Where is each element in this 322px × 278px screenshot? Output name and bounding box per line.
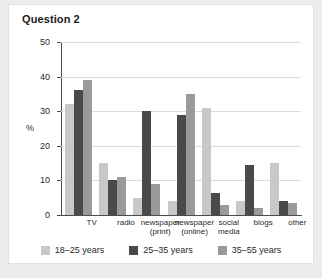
bar [279, 201, 288, 215]
bar [254, 208, 263, 215]
bar [288, 203, 297, 215]
bar [108, 180, 117, 215]
y-axis-tick: 10 [57, 180, 61, 181]
bar-group: other [270, 42, 297, 215]
y-axis-tick: 40 [57, 77, 61, 78]
bar [236, 201, 245, 215]
x-axis-line [61, 215, 302, 216]
x-axis-tick-label-line: media [202, 227, 256, 236]
bar [186, 94, 195, 215]
legend-label: 18–25 years [55, 245, 105, 255]
bar [270, 163, 279, 215]
x-axis-tick-label: other [270, 218, 322, 227]
legend-item: 25–35 years [129, 245, 193, 255]
bar [142, 111, 151, 215]
y-axis-tick: 20 [57, 146, 61, 147]
bar [245, 165, 254, 215]
legend-label: 25–35 years [143, 245, 193, 255]
bar [202, 108, 211, 215]
legend-swatch [218, 246, 227, 255]
bar [99, 163, 108, 215]
legend-item: 18–25 years [41, 245, 105, 255]
bar-group: radio [99, 42, 126, 215]
y-axis-tick: 50 [57, 42, 61, 43]
bar-group: newspaper(print) [133, 42, 160, 215]
bar-group: blogs [236, 42, 263, 215]
y-axis-label: % [26, 123, 34, 133]
y-axis-tick-label: 50 [40, 37, 50, 47]
y-axis-tick-label: 0 [45, 210, 50, 220]
bar [65, 104, 74, 215]
bar-group: TV [65, 42, 92, 215]
y-axis-tick: 0 [57, 215, 61, 216]
legend-swatch [41, 246, 50, 255]
bar [133, 198, 142, 215]
bar-group: socialmedia [202, 42, 229, 215]
chart-legend: 18–25 years25–35 years35–55 years [9, 245, 313, 255]
x-axis-tick-label-line: other [270, 218, 322, 227]
page-title: Question 2 [22, 13, 80, 25]
bar [168, 201, 177, 215]
y-axis-tick-label: 40 [40, 72, 50, 82]
bar [83, 80, 92, 215]
bar [220, 205, 229, 215]
bar [151, 184, 160, 215]
bar [74, 90, 83, 215]
legend-label: 35–55 years [232, 245, 282, 255]
legend-swatch [129, 246, 138, 255]
bar-group: newspaper(online) [168, 42, 195, 215]
y-axis-tick: 30 [57, 111, 61, 112]
plot-area: 01020304050TVradionewspaper(print)newspa… [61, 42, 301, 215]
y-axis-tick-label: 30 [40, 106, 50, 116]
chart-panel: Question 2 % 01020304050TVradionewspaper… [9, 5, 313, 263]
bar [177, 115, 186, 215]
bar [117, 177, 126, 215]
y-axis-tick-label: 20 [40, 141, 50, 151]
bar [211, 193, 220, 215]
y-axis-tick-label: 10 [40, 175, 50, 185]
legend-item: 35–55 years [218, 245, 282, 255]
